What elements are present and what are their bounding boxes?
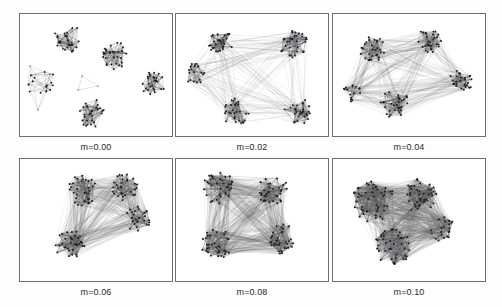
network-graph-5 [333, 159, 485, 281]
edges-layer [55, 175, 149, 257]
panel-plot-area-2 [332, 13, 486, 137]
panel-label-4: m=0.08 [175, 287, 329, 297]
panel-m-010[interactable]: m=0.10 [332, 158, 486, 297]
network-graph-3 [20, 159, 172, 281]
panel-label-5: m=0.10 [332, 287, 486, 297]
panel-label-3: m=0.06 [19, 287, 173, 297]
panel-plot-area-0 [19, 13, 173, 137]
edges-layer [28, 28, 164, 127]
panel-row-top: m=0.00 m=0.02 m=0.04 [0, 13, 502, 157]
panel-m-000[interactable]: m=0.00 [19, 13, 173, 152]
edges-layer [354, 179, 452, 264]
edges-layer [188, 31, 310, 123]
network-graph-0 [20, 14, 172, 136]
network-graph-2 [333, 14, 485, 136]
panel-plot-area-5 [332, 158, 486, 282]
panel-plot-area-3 [19, 158, 173, 282]
panel-m-002[interactable]: m=0.02 [175, 13, 329, 152]
panel-label-1: m=0.02 [175, 142, 329, 152]
panel-label-2: m=0.04 [332, 142, 486, 152]
network-graph-4 [176, 159, 328, 281]
panel-plot-area-1 [175, 13, 329, 137]
panel-m-004[interactable]: m=0.04 [332, 13, 486, 152]
panel-row-bottom: m=0.06 m=0.08 m=0.10 [0, 158, 502, 302]
panel-m-008[interactable]: m=0.08 [175, 158, 329, 297]
panel-m-006[interactable]: m=0.06 [19, 158, 173, 297]
network-figure: m=0.00 m=0.02 m=0.04 m=0.06 m=0.08 [0, 0, 502, 307]
panel-plot-area-4 [175, 158, 329, 282]
network-graph-1 [176, 14, 328, 136]
panel-label-0: m=0.00 [19, 142, 173, 152]
